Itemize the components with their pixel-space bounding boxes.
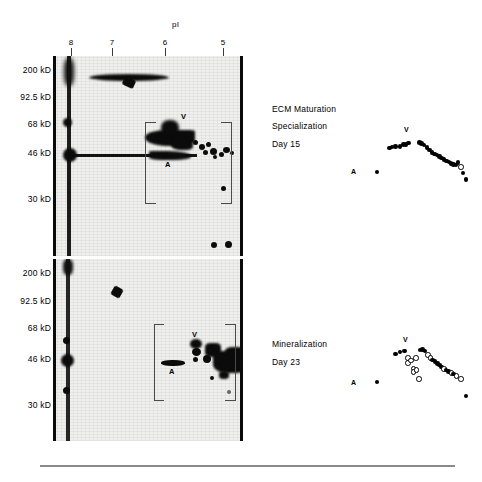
gel-left-edge-top bbox=[53, 56, 56, 256]
gel-panel-top: V A bbox=[53, 56, 243, 256]
gel-origin-blob-bottom bbox=[63, 259, 73, 275]
gel-left-edge-bottom bbox=[53, 259, 56, 441]
pi-axis-label: pI bbox=[172, 20, 179, 29]
pi-tick-5: 5 bbox=[217, 38, 229, 47]
schematic-dot-bottom-1 bbox=[375, 380, 380, 385]
caption-top-line-2: Specialization bbox=[272, 121, 327, 131]
gel-spot-v-tail-bottom bbox=[193, 357, 198, 362]
pi-tick-7: 7 bbox=[106, 38, 118, 47]
gel-bracket-left-top bbox=[145, 122, 156, 204]
mw-label-46kd-top: 46 kD bbox=[0, 148, 51, 158]
pi-tickmark-5 bbox=[223, 48, 224, 56]
mw-label-46kd-bottom: 46 kD bbox=[0, 354, 51, 364]
gel-right-edge-top bbox=[240, 56, 243, 256]
footer-divider bbox=[40, 465, 455, 467]
schematic-panel-top: V A bbox=[340, 128, 482, 200]
gel-68kd-origin-blob-top bbox=[63, 118, 72, 127]
caption-top-line-3: Day 15 bbox=[272, 139, 300, 149]
schematic-dot-top-1 bbox=[375, 170, 380, 175]
pi-tickmark-6 bbox=[165, 48, 166, 56]
schematic-dot-top-8 bbox=[406, 141, 411, 146]
gel-vertical-streak-bottom bbox=[66, 259, 70, 441]
schematic-dot-bottom-4 bbox=[402, 349, 407, 354]
pi-tick-8: 8 bbox=[65, 38, 77, 47]
gel-mark-v-top: V bbox=[181, 112, 186, 121]
caption-bottom-line-2: Day 23 bbox=[272, 357, 300, 367]
gel-lower-streak-top bbox=[68, 156, 70, 204]
mw-label-92kd-top: 92.5 kD bbox=[0, 92, 51, 102]
schematic-panel-bottom: V A bbox=[340, 334, 482, 412]
gel-spot-v-tail-top bbox=[171, 138, 193, 150]
gel-spot-cluster-bottom-4 bbox=[203, 355, 211, 363]
gel-mark-v-bottom: V bbox=[192, 330, 197, 339]
pi-tickmark-8 bbox=[71, 48, 72, 56]
schematic-dot-top-28 bbox=[464, 177, 469, 182]
schematic-mark-a-bottom: A bbox=[351, 379, 356, 386]
gel-spot-top-3 bbox=[206, 142, 211, 147]
caption-top-line-1: ECM Maturation bbox=[272, 104, 336, 114]
gel-68kd-origin-blob-bottom bbox=[63, 337, 70, 344]
schematic-dot-bottom-2 bbox=[393, 352, 398, 357]
schematic-dot-bottom-29 bbox=[458, 376, 464, 382]
gel-spot-top-12 bbox=[225, 241, 232, 248]
gel-30kd-origin-blob-bottom bbox=[63, 387, 70, 394]
schematic-mark-v-bottom: V bbox=[403, 336, 408, 343]
pi-tick-6: 6 bbox=[159, 38, 171, 47]
gel-spot-top-5 bbox=[210, 148, 217, 155]
gel-spot-a-bottom bbox=[161, 360, 185, 366]
mw-label-92kd-bottom: 92.5 kD bbox=[0, 296, 51, 306]
mw-label-200kd-bottom: 200 kD bbox=[0, 268, 51, 278]
gel-46kd-origin-blob-bottom bbox=[61, 354, 74, 367]
gel-spot-bottom-6 bbox=[210, 376, 214, 380]
schematic-mark-a-top: A bbox=[351, 168, 356, 175]
schematic-dot-bottom-27 bbox=[414, 367, 420, 373]
schematic-dot-bottom-30 bbox=[464, 394, 469, 399]
mw-label-200kd-top: 200 kD bbox=[0, 65, 51, 75]
gel-bracket-right-top bbox=[221, 122, 232, 204]
gel-spot-top-1 bbox=[193, 140, 198, 145]
schematic-dot-bottom-28 bbox=[416, 376, 422, 382]
mw-label-68kd-bottom: 68 kD bbox=[0, 323, 51, 333]
gel-spot-top-11 bbox=[211, 242, 217, 248]
gel-mark-a-bottom: A bbox=[169, 367, 174, 376]
gel-spot-top-6 bbox=[213, 155, 217, 159]
mw-label-68kd-top: 68 kD bbox=[0, 119, 51, 129]
pi-tickmark-7 bbox=[112, 48, 113, 56]
gel-bracket-left-bottom bbox=[154, 324, 164, 401]
caption-bottom-line-1: Mineralization bbox=[272, 339, 327, 349]
gel-spot-v-core-top bbox=[161, 120, 179, 136]
schematic-dot-top-26 bbox=[458, 164, 464, 170]
schematic-dot-top-4 bbox=[393, 144, 398, 149]
schematic-dot-bottom-8 bbox=[413, 355, 419, 361]
gel-origin-blob-top bbox=[64, 58, 74, 86]
gel-mark-a-top: A bbox=[165, 160, 170, 169]
gel-panel-bottom: V A bbox=[53, 259, 243, 441]
mw-label-30kd-top: 30 kD bbox=[0, 194, 51, 204]
gel-spot-v-sub-bottom bbox=[192, 348, 201, 356]
schematic-dot-top-27 bbox=[461, 171, 466, 176]
gel-spot-top-4 bbox=[203, 150, 208, 155]
schematic-mark-v-top: V bbox=[404, 126, 409, 133]
figure-root: pI 8 7 6 5 bbox=[0, 0, 482, 482]
gel-bracket-right-bottom bbox=[225, 324, 236, 401]
gel-46kd-origin-blob-top bbox=[63, 148, 77, 162]
mw-label-30kd-bottom: 30 kD bbox=[0, 400, 51, 410]
